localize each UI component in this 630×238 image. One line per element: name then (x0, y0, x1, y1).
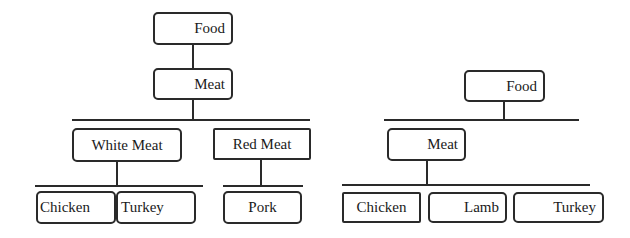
right-node-turkey: Turkey (513, 192, 604, 223)
level-divider (72, 119, 310, 121)
connector (503, 102, 505, 120)
level-divider (223, 185, 303, 187)
connector (426, 161, 428, 185)
node-label: Turkey (553, 200, 596, 215)
level-divider (384, 119, 579, 121)
node-label: White Meat (91, 138, 162, 153)
connector (192, 45, 194, 68)
connector (260, 160, 262, 185)
connector (116, 162, 118, 185)
node-label: Meat (427, 137, 458, 152)
level-divider (342, 184, 590, 186)
left-node-turkey: Turkey (116, 191, 196, 224)
node-label: Chicken (357, 200, 407, 215)
node-label: Turkey (121, 200, 164, 215)
node-label: Food (194, 21, 225, 36)
left-node-chicken: Chicken (36, 191, 116, 224)
node-label: Red Meat (233, 137, 292, 152)
node-label: Food (506, 79, 537, 94)
node-label: Lamb (464, 200, 499, 215)
left-node-pork: Pork (223, 191, 302, 224)
node-label: Pork (248, 200, 276, 215)
left-node-white-meat: White Meat (72, 128, 182, 162)
left-node-food: Food (153, 12, 233, 45)
level-divider (35, 185, 203, 187)
right-node-chicken: Chicken (342, 192, 421, 223)
right-node-food: Food (464, 70, 545, 102)
node-label: Meat (194, 77, 225, 92)
connector (192, 100, 194, 120)
left-node-meat: Meat (153, 68, 233, 100)
right-node-lamb: Lamb (428, 192, 507, 223)
left-node-red-meat: Red Meat (213, 128, 311, 160)
node-label: Chicken (40, 200, 90, 215)
right-node-meat: Meat (387, 128, 466, 161)
